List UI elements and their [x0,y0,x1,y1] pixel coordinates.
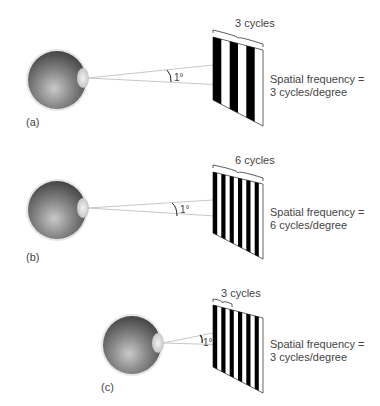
cycles-label-a: 3 cycles [235,17,275,30]
frequency-line2-c: 3 cycles/degree [270,351,347,364]
panel-label-a: (a) [26,116,39,129]
grating-bars [213,37,255,122]
frequency-line1-c: Spatial frequency = [270,338,364,351]
angle-label-b: 1° [180,203,190,216]
panel-label-c: (c) [101,381,114,394]
angle-arc [172,203,177,216]
panel-a [26,30,263,126]
panel-c [101,299,263,393]
panel-b [26,165,263,259]
frequency-line1-b: Spatial frequency = [270,206,364,219]
eye-icon [26,179,89,241]
angle-arc [200,335,202,343]
sight-line-upper [88,200,213,208]
cycles-label-b: 6 cycles [235,154,275,167]
sight-line-upper [88,65,213,78]
eye-icon [101,314,164,376]
angle-label-c: 1° [203,336,213,349]
cycles-label-c: 3 cycles [221,287,261,300]
frequency-line1-a: Spatial frequency = [270,73,364,86]
frequency-line2-b: 6 cycles/degree [270,219,347,232]
frequency-line2-a: 3 cycles/degree [270,86,347,99]
angle-arc [167,70,171,82]
angle-label-a: 1° [174,71,184,84]
panel-label-b: (b) [26,251,39,264]
eye-icon [26,49,89,111]
